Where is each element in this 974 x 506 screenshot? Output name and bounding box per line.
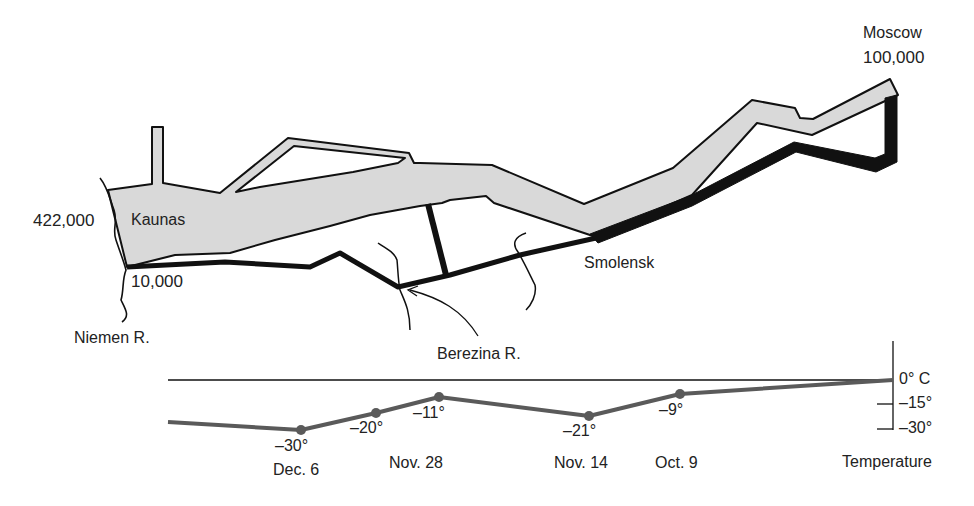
date-nov14: Nov. 14 [554,455,608,471]
temp-label-minus20: –20° [350,420,383,436]
berezina-label: Berezina R. [437,346,521,362]
temp-label-nov28: –11° [413,405,445,421]
tick-label-15: –15° [899,395,932,411]
temperature-line [168,380,893,430]
temperature-axis-label: Temperature [842,454,932,470]
minard-chart [0,0,974,506]
niemen-label: Niemen R. [74,330,150,346]
moscow-label: Moscow [863,25,922,41]
start-troops: 422,000 [33,212,94,229]
temp-label-oct9: –9° [659,402,683,418]
advance-band [108,79,898,267]
smolensk-label: Smolensk [584,255,654,271]
temp-label-dec6: –30° [275,438,308,454]
kaunas-label: Kaunas [131,212,185,228]
date-nov28: Nov. 28 [389,455,443,471]
moscow-troops: 100,000 [863,49,924,66]
date-oct9: Oct. 9 [655,455,698,471]
tick-label-0: 0° C [899,371,930,387]
berezina-arrow [410,290,478,336]
date-dec6: Dec. 6 [273,462,319,478]
retreat-branch [428,204,446,275]
river-east [515,233,536,310]
temp-label-nov14: –21° [563,423,596,439]
tick-label-30: –30° [899,420,932,436]
end-troops: 10,000 [131,273,183,290]
